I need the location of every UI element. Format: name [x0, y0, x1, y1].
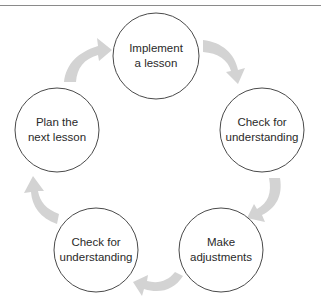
- node-label-line: next lesson: [12, 130, 102, 145]
- node-label-line: understanding: [51, 250, 141, 265]
- node-check-right: Check for understanding: [217, 115, 307, 145]
- arrow-check-left-to-plan: [24, 176, 59, 224]
- node-label-line: Check for: [51, 235, 141, 250]
- node-adjust: Make adjustments: [176, 235, 266, 265]
- node-check-left: Check for understanding: [51, 235, 141, 265]
- node-label-line: Check for: [217, 115, 307, 130]
- node-label-line: understanding: [217, 130, 307, 145]
- arrow-plan-to-implement: [64, 38, 112, 82]
- arrow-adjust-to-check-left: [133, 272, 183, 296]
- arrow-implement-to-check-right: [203, 40, 245, 84]
- node-label-line: Plan the: [12, 115, 102, 130]
- arrow-check-right-to-adjust: [247, 178, 281, 222]
- node-plan: Plan the next lesson: [12, 115, 102, 145]
- node-label-line: a lesson: [111, 56, 201, 71]
- node-label-line: Implement: [111, 41, 201, 56]
- node-label-line: adjustments: [176, 250, 266, 265]
- node-label-line: Make: [176, 235, 266, 250]
- node-implement: Implement a lesson: [111, 41, 201, 71]
